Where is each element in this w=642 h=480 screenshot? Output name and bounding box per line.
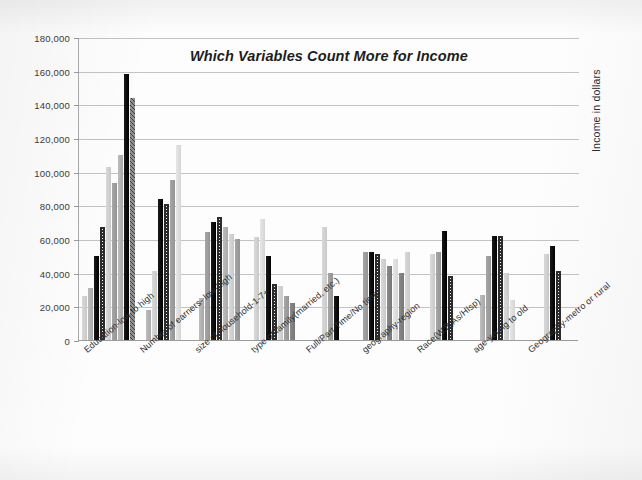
y-axis-tick xyxy=(74,206,79,207)
bar xyxy=(106,167,111,340)
y-axis-tick xyxy=(74,341,79,342)
y-axis-tick-label: 140,000 xyxy=(34,100,70,111)
bar xyxy=(82,296,87,340)
bar xyxy=(235,239,240,340)
y-axis-tick xyxy=(74,173,79,174)
y-axis-tick-label: 20,000 xyxy=(40,302,70,313)
y-axis-tick-label: 80,000 xyxy=(40,201,70,212)
bar xyxy=(260,219,265,340)
y-axis-tick xyxy=(74,105,79,106)
y-axis-tick xyxy=(74,38,79,39)
y-axis-tick-label: 120,000 xyxy=(34,134,70,145)
y-axis-tick xyxy=(74,274,79,275)
y-axis-title: Income in dollars xyxy=(590,69,602,152)
y-axis-tick-label: 180,000 xyxy=(34,33,70,44)
bar-group xyxy=(82,37,136,340)
bar xyxy=(158,199,163,340)
bar xyxy=(112,183,117,340)
bar xyxy=(486,256,491,340)
y-axis-tick-label: 60,000 xyxy=(40,235,70,246)
y-axis-tick-label: 160,000 xyxy=(34,66,70,77)
y-axis-tick xyxy=(74,72,79,73)
bar-group xyxy=(480,37,516,340)
bar-chart: Which Variables Count More for Income In… xyxy=(0,0,642,480)
y-axis-tick xyxy=(74,240,79,241)
bar xyxy=(88,288,93,340)
bar xyxy=(94,256,99,340)
y-axis-tick xyxy=(74,307,79,308)
bar xyxy=(430,254,435,340)
bar-group xyxy=(430,37,454,340)
bar-group xyxy=(544,37,562,340)
bar xyxy=(124,74,129,340)
y-axis-tick-label: 100,000 xyxy=(34,167,70,178)
bar xyxy=(254,237,259,340)
y-axis-tick xyxy=(74,139,79,140)
bar xyxy=(405,252,410,340)
y-axis-tick-label: 40,000 xyxy=(40,268,70,279)
bar xyxy=(399,273,404,340)
bar xyxy=(100,227,105,340)
y-axis-tick-label: 0 xyxy=(65,336,70,347)
